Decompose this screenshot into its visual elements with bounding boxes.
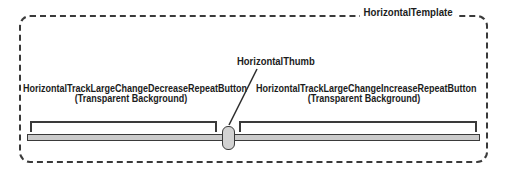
horizontal-template-diagram: HorizontalTemplate HorizontalThumb Horiz… <box>0 0 507 178</box>
horizontal-thumb[interactable] <box>222 126 235 150</box>
horizontal-thumb-label: HorizontalThumb <box>237 55 315 67</box>
thumb-leader-line <box>0 0 507 178</box>
horizontal-template-label: HorizontalTemplate <box>360 6 456 18</box>
